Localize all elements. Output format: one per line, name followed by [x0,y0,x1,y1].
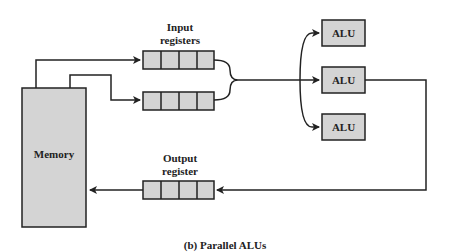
output-register-label-1: Output [140,152,220,164]
input-registers-label-1: Input [140,21,220,33]
output-register [143,181,214,199]
input-registers-label-2: registers [140,34,220,46]
alu-label-2: ALU [322,74,365,86]
output-register-label-2: register [140,165,220,177]
parallel-alus-diagram: Memory Input registers ALU ALU ALU Outpu… [0,0,449,252]
diagram-canvas [0,0,449,252]
figure-caption: (b) Parallel ALUs [150,239,300,251]
alu-label-1: ALU [322,27,365,39]
memory-label: Memory [22,148,86,160]
input-register-2 [143,92,214,110]
input-register-1 [143,51,214,69]
alu-label-3: ALU [322,121,365,133]
